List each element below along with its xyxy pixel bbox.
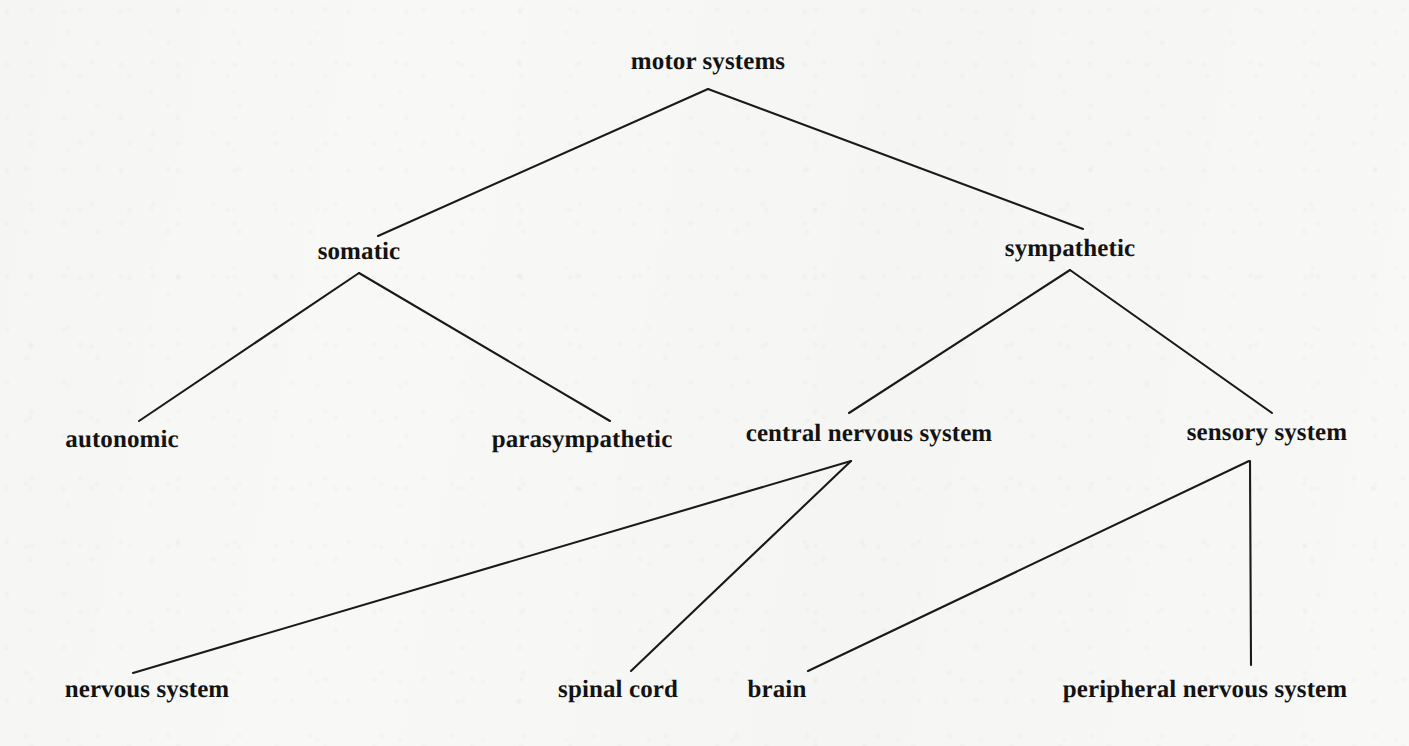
connector-lines [133, 89, 1272, 673]
node-spinal-cord: spinal cord [558, 676, 678, 704]
edge-sensory-brain [808, 461, 1249, 671]
edge-cns-nervous-system [133, 461, 851, 673]
node-motor-systems: motor systems [631, 48, 785, 76]
node-peripheral-nervous-system: peripheral nervous system [1063, 676, 1347, 704]
edge-sensory-peripheral [1250, 461, 1251, 665]
edge-motor-somatic [378, 89, 708, 236]
node-brain: brain [748, 676, 807, 704]
node-autonomic: autonomic [65, 426, 178, 454]
edge-sympathetic-cns [849, 270, 1070, 413]
node-central-nervous-system: central nervous system [746, 420, 993, 448]
node-nervous-system: nervous system [65, 676, 230, 704]
node-sympathetic: sympathetic [1005, 235, 1135, 263]
edge-somatic-autonomic [139, 273, 359, 421]
edge-somatic-parasympathetic [359, 273, 610, 421]
edge-layer [0, 0, 1409, 746]
edge-sympathetic-sensory [1070, 270, 1272, 413]
node-somatic: somatic [318, 238, 401, 266]
node-sensory-system: sensory system [1187, 419, 1347, 447]
tree-diagram: motor systemssomaticsympatheticautonomic… [0, 0, 1409, 746]
edge-motor-sympathetic [708, 89, 1083, 229]
node-parasympathetic: parasympathetic [492, 426, 673, 454]
